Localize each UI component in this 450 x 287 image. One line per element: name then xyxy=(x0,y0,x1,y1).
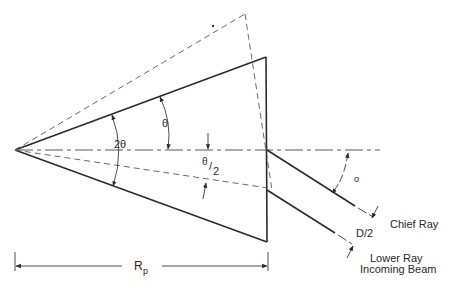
label-rp: R xyxy=(134,259,143,273)
d2-arrow-bottom xyxy=(347,246,353,258)
label-theta: θ xyxy=(162,117,168,129)
label-2theta: 2θ xyxy=(114,138,126,150)
label-rp-sub: p xyxy=(143,266,148,276)
bisector-line xyxy=(15,150,268,188)
prism-diagram: 2θ θ θ / 2 o D/2 Chief Ray Lower Ray Inc… xyxy=(0,0,450,287)
label-d2: D/2 xyxy=(356,227,373,239)
d2-arrow-top xyxy=(372,206,378,218)
angle-arc-incidence xyxy=(332,153,348,193)
label-incidence-angle: o xyxy=(354,174,359,184)
label-chief-ray: Chief Ray xyxy=(390,218,439,230)
label-incoming-beam: Incoming Beam xyxy=(360,263,436,275)
label-theta-half-num: θ xyxy=(202,156,208,167)
lower-ray xyxy=(267,190,352,244)
reference-dot xyxy=(212,25,214,27)
label-theta-half-den: 2 xyxy=(213,165,219,177)
theta-half-arrow-bottom xyxy=(203,183,206,199)
